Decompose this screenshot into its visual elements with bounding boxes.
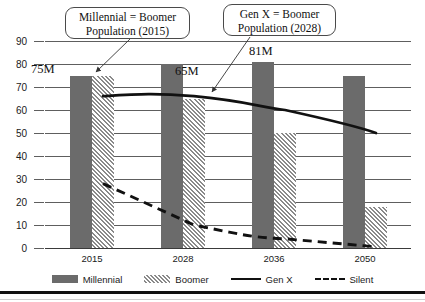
x-tick-2015: 2015 bbox=[81, 253, 102, 264]
page-divider-rule bbox=[0, 291, 425, 294]
solid-fill-swatch-icon bbox=[52, 275, 78, 283]
dashed-line-swatch-icon bbox=[315, 278, 345, 280]
line-genx bbox=[103, 94, 376, 133]
chart-screenshot: 90 80 70 60 50 40 30 20 10 0 2015 2028 2… bbox=[0, 0, 425, 302]
solid-line-swatch-icon bbox=[231, 278, 261, 280]
legend-label-boomer: Boomer bbox=[175, 274, 208, 285]
plot-area bbox=[45, 41, 411, 248]
y-tick-dash-70 bbox=[34, 87, 44, 88]
callout-b-line1: Gen X = Boomer bbox=[229, 7, 330, 21]
callout-genx-equals-boomer: Gen X = Boomer Population (2028) bbox=[223, 4, 336, 36]
callout-a-line2: Population (2015) bbox=[71, 24, 184, 38]
line-silent bbox=[103, 184, 376, 247]
y-tick-50: 50 bbox=[0, 128, 27, 139]
y-tick-dash-50 bbox=[34, 133, 44, 134]
data-label-75m: 75M bbox=[31, 62, 55, 77]
callout-b-line2: Population (2028) bbox=[229, 21, 330, 35]
legend: Millennial Boomer Gen X Silent bbox=[0, 272, 425, 286]
y-tick-0: 0 bbox=[0, 243, 27, 254]
y-tick-20: 20 bbox=[0, 197, 27, 208]
x-tick-2036: 2036 bbox=[263, 253, 284, 264]
line-series-layer bbox=[45, 41, 411, 248]
legend-item-genx[interactable]: Gen X bbox=[231, 274, 293, 285]
page-divider-rule-faint bbox=[0, 299, 425, 300]
y-tick-dash-20 bbox=[34, 202, 44, 203]
x-tick-2028: 2028 bbox=[172, 253, 193, 264]
legend-label-silent: Silent bbox=[350, 274, 374, 285]
y-tick-40: 40 bbox=[0, 151, 27, 162]
x-axis-line bbox=[45, 248, 411, 249]
y-tick-80: 80 bbox=[0, 59, 27, 70]
y-tick-dash-60 bbox=[34, 110, 44, 111]
data-label-65m: 65M bbox=[175, 64, 199, 79]
y-tick-90: 90 bbox=[0, 36, 27, 47]
legend-item-millennial[interactable]: Millennial bbox=[52, 274, 123, 285]
y-tick-60: 60 bbox=[0, 105, 27, 116]
legend-label-millennial: Millennial bbox=[83, 274, 123, 285]
hatched-fill-swatch-icon bbox=[144, 275, 170, 283]
y-tick-dash-30 bbox=[34, 179, 44, 180]
x-tick-2050: 2050 bbox=[354, 253, 375, 264]
callout-a-line1: Millennial = Boomer bbox=[71, 10, 184, 24]
y-tick-70: 70 bbox=[0, 82, 27, 93]
y-tick-dash-0 bbox=[34, 248, 44, 249]
data-label-81m: 81M bbox=[249, 44, 273, 59]
y-tick-dash-40 bbox=[34, 156, 44, 157]
legend-item-boomer[interactable]: Boomer bbox=[144, 274, 208, 285]
y-tick-dash-90 bbox=[34, 41, 44, 42]
y-tick-10: 10 bbox=[0, 220, 27, 231]
legend-label-genx: Gen X bbox=[266, 274, 293, 285]
callout-millennial-equals-boomer: Millennial = Boomer Population (2015) bbox=[65, 7, 190, 39]
y-tick-30: 30 bbox=[0, 174, 27, 185]
y-tick-dash-10 bbox=[34, 225, 44, 226]
legend-item-silent[interactable]: Silent bbox=[315, 274, 374, 285]
